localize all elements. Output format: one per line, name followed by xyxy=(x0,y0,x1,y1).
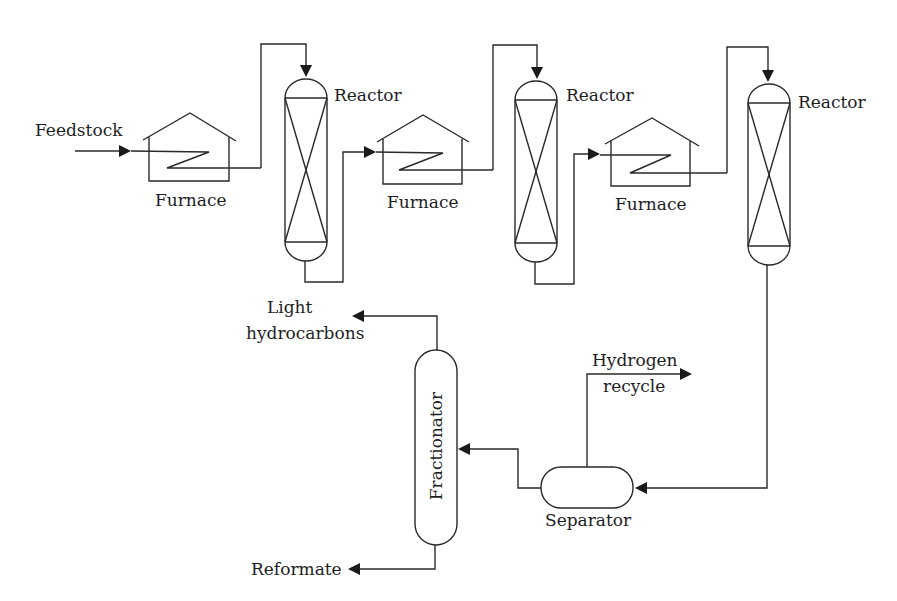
feedstock-label: Feedstock xyxy=(35,120,123,140)
light-hydrocarbons-outlet: Light hydrocarbons xyxy=(246,297,437,350)
arrow-down-icon xyxy=(300,65,312,77)
reactor-1: Reactor xyxy=(285,79,403,261)
arrow-left-icon xyxy=(352,310,364,322)
arrow-right-icon xyxy=(364,146,376,158)
feedstock-inlet: Feedstock xyxy=(35,120,131,157)
reactor-2: Reactor xyxy=(515,81,635,262)
furnace-3: Furnace xyxy=(600,118,727,214)
fractionator: Fractionator xyxy=(415,350,457,545)
furnace-1-label: Furnace xyxy=(155,190,227,210)
arrow-down-icon xyxy=(762,70,774,82)
pipe-separator-fractionator xyxy=(469,449,541,488)
furnace-1: Furnace xyxy=(131,113,261,210)
process-flow-diagram: Feedstock Furnace Reactor Furnace xyxy=(0,0,897,601)
hydrogen-label-line1: Hydrogen xyxy=(592,350,678,370)
arrow-left-icon xyxy=(458,443,470,455)
arrow-left-icon xyxy=(348,563,360,575)
arrow-down-icon xyxy=(531,67,543,79)
light-hc-label-line2: hydrocarbons xyxy=(246,323,364,343)
furnace-2: Furnace xyxy=(376,115,493,212)
reformate-label: Reformate xyxy=(251,559,342,579)
separator: Separator xyxy=(541,467,633,530)
arrow-right-icon xyxy=(680,368,692,380)
reactor-3-label: Reactor xyxy=(798,92,867,112)
hydrogen-label-line2: recycle xyxy=(603,376,665,396)
fractionator-label: Fractionator xyxy=(426,391,446,500)
reactor-3: Reactor xyxy=(748,84,867,265)
furnace-2-label: Furnace xyxy=(387,192,459,212)
reactor-2-label: Reactor xyxy=(566,85,635,105)
arrow-left-icon xyxy=(635,482,647,494)
reformate-outlet: Reformate xyxy=(251,545,435,579)
separator-label: Separator xyxy=(545,510,632,530)
arrow-right-icon xyxy=(119,145,131,157)
furnace-3-label: Furnace xyxy=(615,194,687,214)
reactor-1-label: Reactor xyxy=(334,85,403,105)
arrow-right-icon xyxy=(588,148,600,160)
light-hc-label-line1: Light xyxy=(267,297,313,317)
hydrogen-recycle-outlet: Hydrogen recycle xyxy=(587,350,692,467)
